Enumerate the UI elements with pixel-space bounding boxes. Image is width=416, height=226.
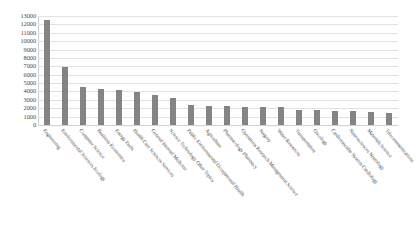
category-slot: Water Resources	[272, 127, 290, 226]
bar	[116, 90, 122, 125]
y-tick-5000: 5000	[2, 80, 36, 86]
category-slot: Health Care Sciences Services	[128, 127, 146, 226]
category-slot: Business Economics	[92, 127, 110, 226]
category-slot: Public Environmental Occupational Health	[182, 127, 200, 226]
bar-slot	[200, 16, 218, 125]
y-tick-7000: 7000	[2, 63, 36, 69]
bar	[368, 112, 374, 125]
y-tick-3000: 3000	[2, 97, 36, 103]
y-tick-2000: 2000	[2, 105, 36, 111]
y-tick-9000: 9000	[2, 46, 36, 52]
bar	[386, 113, 392, 125]
plot-area	[38, 16, 398, 125]
bar	[350, 111, 356, 125]
category-slot: Engineering	[38, 127, 56, 226]
bar-slot	[110, 16, 128, 125]
y-tick-11000: 11000	[2, 30, 36, 36]
category-slot: Cardiovascular System Cardiology	[326, 127, 344, 226]
bar	[224, 106, 230, 125]
bar-slot	[74, 16, 92, 125]
category-slot: Materials Science	[362, 127, 380, 226]
y-tick-13000: 13000	[2, 13, 36, 19]
bar	[62, 67, 68, 125]
bar	[44, 20, 50, 125]
bar-slot	[380, 16, 398, 125]
bar	[278, 107, 284, 125]
bar-slot	[128, 16, 146, 125]
bar	[206, 106, 212, 125]
bar-slot	[290, 16, 308, 125]
bar	[98, 89, 104, 125]
bar	[314, 110, 320, 125]
bar-slot	[254, 16, 272, 125]
bar	[80, 87, 86, 125]
bar	[134, 92, 140, 125]
bar-slot	[236, 16, 254, 125]
category-slot: Environmental Sciences Ecology	[56, 127, 74, 226]
y-tick-4000: 4000	[2, 88, 36, 94]
gridline-0	[38, 125, 398, 126]
bar	[296, 110, 302, 125]
bar-slot	[344, 16, 362, 125]
y-tick-1000: 1000	[2, 113, 36, 119]
category-slot: Neurosciences Neurology	[344, 127, 362, 226]
category-slot: Surgery	[254, 127, 272, 226]
bar-slot	[326, 16, 344, 125]
bar-slot	[362, 16, 380, 125]
bar-series	[38, 16, 398, 125]
bar	[170, 98, 176, 125]
y-axis-tick-labels: 1300012000110001000090008000700060005000…	[0, 16, 36, 126]
category-slot: Transportation	[290, 127, 308, 226]
category-slot: Agriculture	[200, 127, 218, 226]
bar-slot	[38, 16, 56, 125]
bar-slot	[164, 16, 182, 125]
category-slot: General Internal Medicine	[146, 127, 164, 226]
category-slot: Operations Research Management Science	[236, 127, 254, 226]
bar-slot	[308, 16, 326, 125]
category-slot: Science Technology Other Topics	[164, 127, 182, 226]
category-slot: Pharmacology Pharmacy	[218, 127, 236, 226]
bar-slot	[182, 16, 200, 125]
y-tick-10000: 10000	[2, 38, 36, 44]
category-slot: Computer Science	[74, 127, 92, 226]
category-slot: Telecommunications	[380, 127, 398, 226]
y-tick-12000: 12000	[2, 21, 36, 27]
bar-slot	[218, 16, 236, 125]
bar	[188, 105, 194, 125]
bar-slot	[92, 16, 110, 125]
bar	[242, 107, 248, 125]
bar	[260, 107, 266, 125]
y-tick-6000: 6000	[2, 71, 36, 77]
bar-slot	[56, 16, 74, 125]
y-tick-8000: 8000	[2, 55, 36, 61]
y-tick-0: 0	[2, 122, 36, 128]
category-slot: Energy Fuels	[110, 127, 128, 226]
category-label: Telecommunications	[384, 128, 415, 163]
bar-slot	[146, 16, 164, 125]
bar-slot	[272, 16, 290, 125]
category-slot: Oncology	[308, 127, 326, 226]
bar	[332, 111, 338, 125]
category-label: Surgery	[258, 128, 272, 144]
bar	[152, 95, 158, 125]
x-axis-category-labels: EngineeringEnvironmental Sciences Ecolog…	[38, 127, 398, 226]
